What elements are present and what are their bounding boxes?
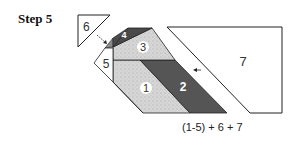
piece-6-label: 6 [83, 20, 90, 34]
piece-3-label-group: 3 [137, 41, 149, 53]
piece-1-label: 1 [143, 82, 149, 94]
piece-7-label: 7 [239, 54, 246, 69]
piece-1-label-group: 1 [140, 82, 152, 94]
piece-5-label: 5 [103, 57, 110, 71]
formula: (1-5) + 6 + 7 [182, 121, 243, 133]
piece-3-label: 3 [140, 41, 146, 53]
arrow-left-icon [193, 68, 201, 72]
piece-2-label: 2 [180, 80, 187, 94]
piece-4-label: 4 [121, 30, 126, 40]
quilt-diagram: 6 1 2 3 4 5 7 [0, 0, 293, 158]
arrow-icon [97, 35, 107, 44]
